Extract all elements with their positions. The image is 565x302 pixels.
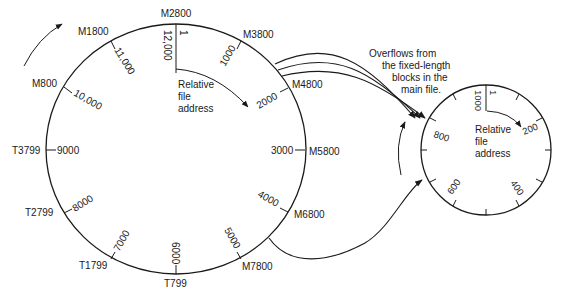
label-m6800: M6800 <box>294 209 325 220</box>
label-m800: M800 <box>32 78 57 89</box>
main-caption-line-2: file <box>178 91 191 102</box>
label-t2799: T2799 <box>25 207 54 218</box>
overflow-diagram: M2800 M1800 M800 T3799 T2799 T1799 T799 … <box>0 0 565 302</box>
overflow-label-600: 600 <box>445 177 463 196</box>
label-m2800: M2800 <box>161 8 192 19</box>
overflow-caption-line-1: Relative <box>475 124 512 135</box>
label-m5800: M5800 <box>309 146 340 157</box>
label-rel-5000: 5000 <box>222 226 243 251</box>
overflow-caption-line-2: file <box>475 136 488 147</box>
label-rel-8000: 8000 <box>70 192 95 213</box>
overflow-label-800: 800 <box>432 128 450 143</box>
label-rel-3000: 3000 <box>271 145 294 156</box>
label-rel-2000: 2000 <box>255 90 280 111</box>
label-rel-7000: 7000 <box>111 228 132 253</box>
overflow-caption-line-3: address <box>475 148 511 159</box>
label-rel-9000: 9000 <box>57 145 80 156</box>
overflow-label-1000: 1000 <box>473 90 484 111</box>
overflow-file-circle: 1 1000 200 400 600 800 Relative file add… <box>421 85 551 215</box>
label-t799: T799 <box>164 278 187 289</box>
label-m3800: M3800 <box>243 29 274 40</box>
label-rel-1: 1 <box>178 30 189 36</box>
main-file-circle: M2800 M1800 M800 T3799 T2799 T1799 T799 … <box>12 8 340 289</box>
annotation-line-2: the fixed-length <box>382 60 450 71</box>
label-m4800: M4800 <box>292 79 323 90</box>
overflow-rotation-arrow-icon <box>398 122 405 175</box>
overflow-label-1: 1 <box>488 90 499 95</box>
main-caption-line-1: Relative <box>178 79 215 90</box>
overflow-annotation: Overflows from the fixed-length blocks i… <box>369 48 450 95</box>
label-rel-6000: 6000 <box>170 242 181 265</box>
rotation-arrow-icon <box>24 24 62 66</box>
label-rel-12000: 12,000 <box>162 30 173 61</box>
annotation-line-1: Overflows from <box>369 48 436 59</box>
label-rel-10000: 10,000 <box>72 87 104 112</box>
label-rel-1000: 1000 <box>217 43 238 68</box>
annotation-line-3: blocks in the <box>392 72 448 83</box>
overflow-label-200: 200 <box>521 121 540 137</box>
main-caption-line-3: address <box>178 103 214 114</box>
label-rel-11000: 11,000 <box>112 45 137 77</box>
label-m1800: M1800 <box>78 26 109 37</box>
label-m7800: M7800 <box>242 261 273 272</box>
annotation-line-4: main file. <box>401 84 441 95</box>
label-t3799: T3799 <box>12 145 41 156</box>
overflow-label-400: 400 <box>508 178 526 197</box>
label-rel-4000: 4000 <box>256 188 281 209</box>
label-t1799: T1799 <box>79 260 108 271</box>
overflow-link-4 <box>269 180 422 259</box>
